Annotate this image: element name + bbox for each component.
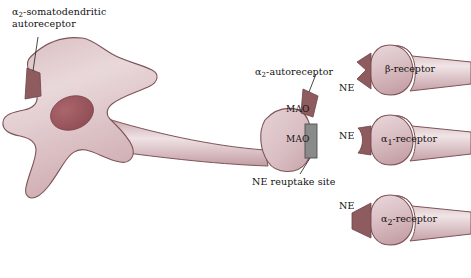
alpha2-somatodendritic-autoreceptor-icon bbox=[25, 68, 41, 99]
label-alpha2-autoreceptor: α2-autoreceptor bbox=[255, 66, 333, 78]
label-ne-reuptake-site: NE reuptake site bbox=[252, 176, 335, 188]
diagram-canvas: α2-somatodendritic autoreceptor α2-autor… bbox=[0, 0, 471, 278]
label-alpha1-receptor: α1-receptor bbox=[381, 133, 437, 147]
label-beta-receptor: β-receptor bbox=[385, 63, 435, 74]
label-alpha2-somatodendritic-autoreceptor: α2-somatodendritic autoreceptor bbox=[12, 6, 106, 29]
label-beta-rest: -receptor bbox=[391, 63, 435, 74]
label-alpha2-receptor: α2-receptor bbox=[381, 213, 437, 227]
label-alpha2-rest: -receptor bbox=[392, 213, 436, 224]
label-mao-lower: MAO bbox=[286, 134, 310, 144]
label-somatodendritic-line2: autoreceptor bbox=[12, 18, 76, 29]
alpha1-receptor-icon bbox=[358, 126, 371, 155]
ne-label-alpha1: NE bbox=[339, 130, 355, 141]
label-autoreceptor-rest: -autoreceptor bbox=[266, 66, 333, 77]
label-alpha1-rest: -receptor bbox=[392, 133, 436, 144]
noradrenergic-neuron bbox=[3, 37, 318, 198]
ne-label-beta: NE bbox=[339, 82, 355, 93]
beta-receptor-icon bbox=[357, 53, 371, 89]
label-somatodendritic-rest: -somatodendritic bbox=[23, 6, 106, 17]
label-mao-upper: MAO bbox=[286, 104, 310, 114]
ne-label-alpha2: NE bbox=[339, 200, 355, 211]
